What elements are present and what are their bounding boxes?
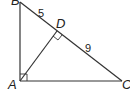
measure-dc: 9 xyxy=(85,42,91,54)
label-c: C xyxy=(122,77,130,92)
right-angle-mark-d xyxy=(53,35,62,40)
triangle-diagram: B D A C 5 9 xyxy=(0,0,130,93)
label-b: B xyxy=(11,0,20,8)
altitude-ad xyxy=(20,31,57,81)
label-d: D xyxy=(56,16,65,31)
segment-bc xyxy=(20,2,122,81)
measure-bd: 5 xyxy=(38,7,44,19)
label-a: A xyxy=(7,77,17,92)
